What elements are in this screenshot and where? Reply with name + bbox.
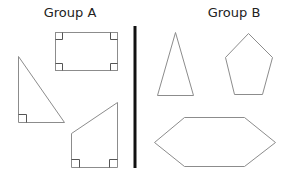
group-a-rectangle bbox=[56, 33, 118, 71]
right-angle-mark bbox=[72, 160, 80, 168]
group-b-pentagon bbox=[226, 34, 273, 95]
right-angle-mark bbox=[111, 64, 118, 71]
right-angle-mark bbox=[19, 115, 27, 123]
group-a-trapezoid bbox=[72, 103, 118, 168]
right-angle-mark bbox=[110, 160, 118, 168]
group-b-triangle bbox=[158, 33, 194, 96]
group-b-hexagon bbox=[155, 118, 276, 167]
group-a-right-triangle bbox=[19, 57, 65, 123]
trapezoid-outline bbox=[72, 103, 118, 168]
triangle-outline bbox=[19, 57, 65, 123]
right-angle-mark bbox=[56, 33, 63, 40]
rectangle-outline bbox=[56, 33, 118, 71]
right-angle-mark bbox=[111, 33, 118, 40]
shapes-diagram bbox=[0, 0, 289, 179]
right-angle-mark bbox=[56, 64, 63, 71]
